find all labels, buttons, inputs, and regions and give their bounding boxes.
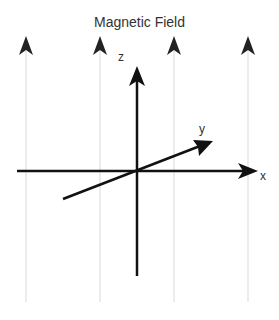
y-axis-label: y xyxy=(199,122,205,136)
z-axis: z xyxy=(118,50,145,276)
z-axis-label: z xyxy=(118,50,124,64)
x-axis: x xyxy=(17,163,266,183)
field-line-1 xyxy=(19,36,33,302)
field-line-2 xyxy=(93,36,107,302)
field-line-3 xyxy=(167,36,181,302)
magnetic-field-diagram: z x y xyxy=(0,0,279,320)
x-axis-label: x xyxy=(260,169,266,183)
